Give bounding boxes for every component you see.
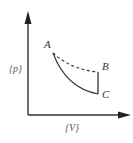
y-axis-label: {p} xyxy=(9,64,22,74)
point-b-label: B xyxy=(102,61,109,72)
x-axis-arrow-icon xyxy=(118,112,131,119)
path-c-to-a xyxy=(53,53,98,94)
pv-diagram: A B C {p} {V} xyxy=(0,0,133,143)
x-axis-label: {V} xyxy=(65,123,79,133)
point-a-label: A xyxy=(44,39,51,50)
y-axis-arrow-icon xyxy=(25,11,32,24)
point-c-label: C xyxy=(102,89,109,100)
path-a-to-b xyxy=(53,53,98,72)
